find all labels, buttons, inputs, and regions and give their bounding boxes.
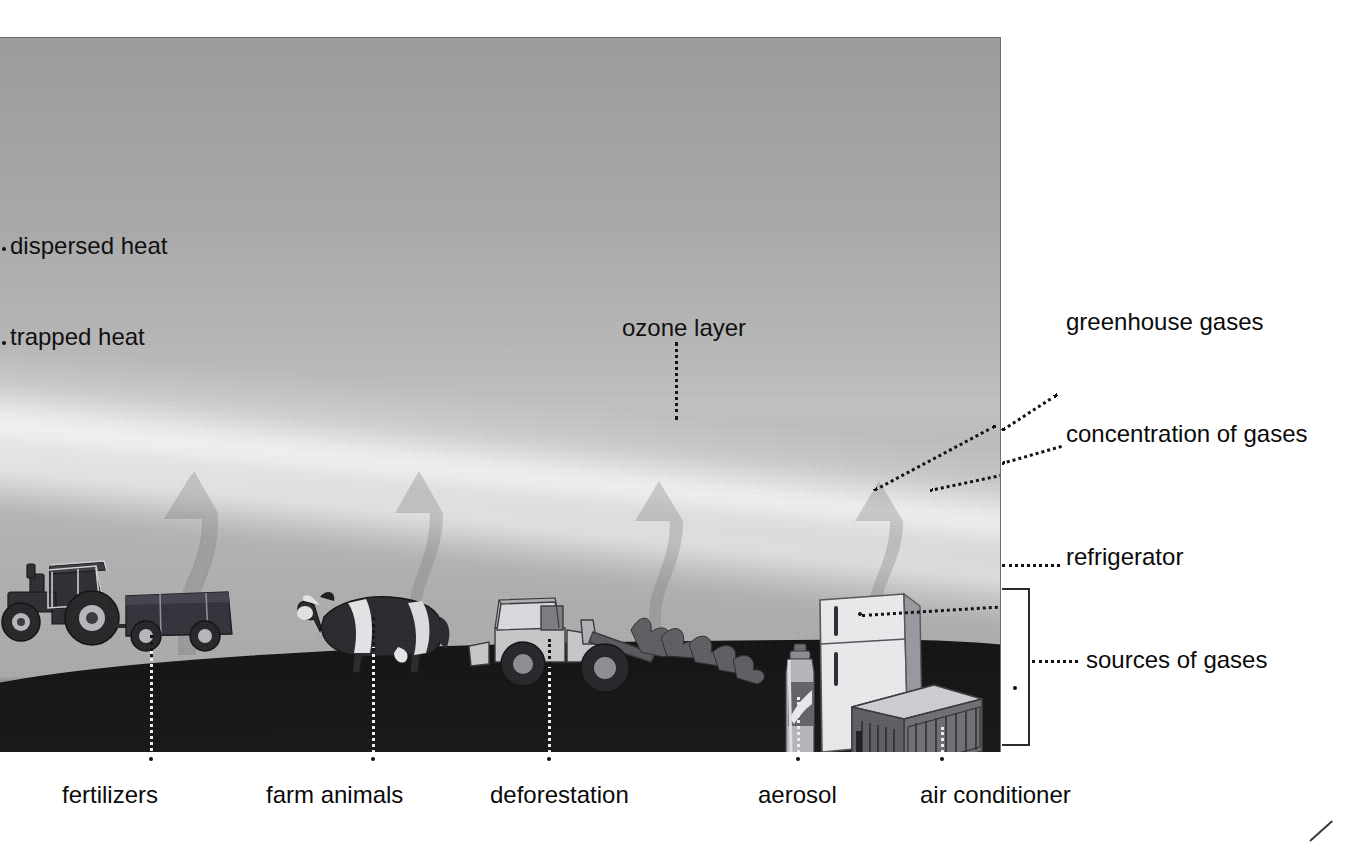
leader-fertilizers-lower <box>150 651 153 752</box>
leader-sources-of-gases <box>1032 660 1078 663</box>
leader-concentration-outer <box>1002 445 1062 465</box>
label-trapped-heat: trapped heat <box>10 325 145 349</box>
leader-deforestation-lower <box>548 667 551 752</box>
illustration-photo <box>0 37 1001 752</box>
label-air-conditioner: air conditioner <box>920 783 1071 807</box>
leader-fertilizers-upper <box>150 635 153 657</box>
label-concentration-of-gases: concentration of gases <box>1066 422 1308 446</box>
leader-deforestation-upper <box>548 639 551 671</box>
tick-fertilizers <box>149 757 153 761</box>
label-farm-animals: farm animals <box>266 783 403 807</box>
bullet-trapped-heat <box>2 341 6 345</box>
label-fertilizers: fertilizers <box>62 783 158 807</box>
sources-of-gases-bracket <box>1002 588 1030 746</box>
leader-ozone-layer <box>675 342 678 420</box>
label-dispersed-heat: dispersed heat <box>10 234 167 258</box>
leader-farm-animals-upper <box>372 617 375 651</box>
leader-refrigerator-arrowhead <box>858 612 862 616</box>
bracket-mid-dot <box>1013 686 1017 690</box>
leader-air-conditioner-lower <box>941 727 944 752</box>
tick-deforestation <box>547 757 551 761</box>
leader-refrigerator-outer <box>1002 564 1060 567</box>
leader-greenhouse-gases-outer <box>1001 393 1058 431</box>
leader-aerosol-lower <box>797 697 800 752</box>
bullet-dispersed-heat <box>2 247 6 251</box>
corner-mark <box>1306 814 1340 848</box>
label-refrigerator: refrigerator <box>1066 545 1183 569</box>
air-conditioner-unit <box>848 671 988 752</box>
label-deforestation: deforestation <box>490 783 629 807</box>
label-aerosol: aerosol <box>758 783 837 807</box>
diagram-canvas: dispersed heat trapped heat ozone layer … <box>0 0 1352 866</box>
leader-farm-animals-lower <box>372 647 375 752</box>
label-ozone-layer: ozone layer <box>622 316 746 340</box>
label-sources-of-gases: sources of gases <box>1086 648 1267 672</box>
tractor-with-trailer <box>0 552 235 671</box>
tick-aerosol <box>796 757 800 761</box>
tick-farm-animals <box>371 757 375 761</box>
tick-air-conditioner <box>940 757 944 761</box>
logging-skidder <box>455 592 775 706</box>
label-greenhouse-gases: greenhouse gases <box>1066 310 1263 334</box>
